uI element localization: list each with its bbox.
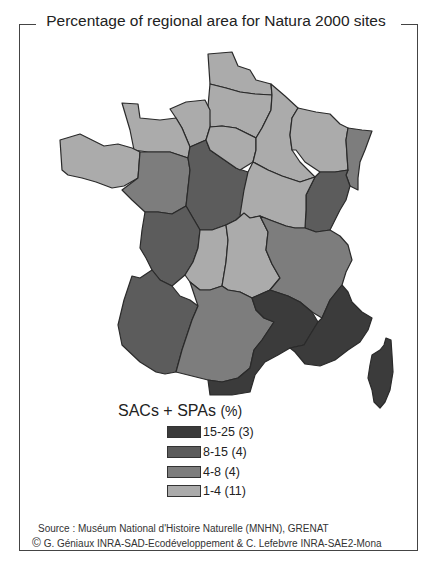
legend-label: 4-8 (4)	[203, 465, 240, 479]
legend-unit: (%)	[220, 403, 242, 419]
legend-title: SACs + SPAs (%)	[118, 402, 242, 420]
legend-item-8-15: 8-15 (4)	[167, 446, 247, 458]
legend-swatch	[167, 426, 201, 438]
legend-item-15-25: 15-25 (3)	[167, 426, 254, 438]
legend-title-text: SACs + SPAs	[118, 402, 216, 419]
source-line: Source : Muséum National d'Histoire Natu…	[38, 523, 329, 534]
copyright-icon: ©	[32, 536, 41, 550]
legend-label: 1-4 (11)	[203, 484, 246, 498]
legend-item-1-4: 1-4 (11)	[167, 485, 246, 497]
legend-label: 15-25 (3)	[203, 425, 254, 439]
credits-line: © G. Géniaux INRA-SAD-Ecodéveloppement &…	[32, 536, 382, 550]
region-alsace[interactable]	[346, 128, 372, 190]
credits-text: G. Géniaux INRA-SAD-Ecodéveloppement & C…	[44, 538, 382, 549]
legend-label: 8-15 (4)	[203, 445, 247, 459]
region-bretagne[interactable]	[60, 134, 140, 188]
region-corse[interactable]	[368, 338, 393, 408]
legend-item-4-8: 4-8 (4)	[167, 466, 240, 478]
legend-swatch	[167, 485, 201, 497]
legend-swatch	[167, 466, 201, 478]
legend-swatch	[167, 446, 201, 458]
